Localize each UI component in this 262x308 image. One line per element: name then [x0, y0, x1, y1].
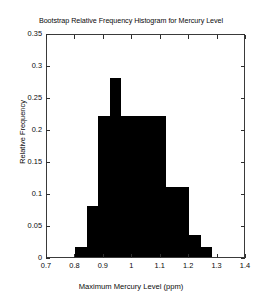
- x-axis-tick: [188, 254, 189, 258]
- histogram-bar: [189, 235, 200, 257]
- histogram-bar: [132, 116, 143, 257]
- plot-area: [46, 34, 245, 258]
- y-axis-tick: [46, 194, 50, 195]
- y-axis-tick: [46, 130, 50, 131]
- histogram-bar: [178, 187, 189, 257]
- x-axis-tick: [245, 35, 246, 39]
- histogram-bar: [98, 116, 109, 257]
- y-axis-tick: [241, 130, 245, 131]
- y-axis-tick: [46, 162, 50, 163]
- x-axis-tick-label: 0.9: [88, 262, 118, 270]
- x-axis-tick: [103, 254, 104, 258]
- x-axis-tick: [74, 35, 75, 39]
- y-axis-tick: [241, 162, 245, 163]
- x-axis-tick: [217, 254, 218, 258]
- y-axis-tick: [241, 66, 245, 67]
- histogram-figure: Bootstrap Relative Frequency Histogram f…: [0, 0, 262, 308]
- histogram-bar: [144, 116, 155, 257]
- x-axis-tick-label: 1.1: [145, 262, 175, 270]
- x-axis-tick: [74, 254, 75, 258]
- histogram-bar: [110, 78, 121, 257]
- x-axis-tick-label: 0.8: [59, 262, 89, 270]
- x-axis-tick: [160, 254, 161, 258]
- x-axis-tick-label: 1: [116, 262, 146, 270]
- histogram-bar: [201, 247, 212, 257]
- x-axis-tick-label: 1.4: [230, 262, 260, 270]
- x-axis-tick: [217, 35, 218, 39]
- x-axis-tick: [46, 35, 47, 39]
- y-axis-tick: [241, 194, 245, 195]
- x-axis-title: Maximum Mercury Level (ppm): [0, 282, 262, 291]
- histogram-bar: [166, 187, 177, 257]
- x-axis-tick: [160, 35, 161, 39]
- y-axis-tick: [46, 66, 50, 67]
- histogram-bar: [155, 116, 166, 257]
- x-axis-tick: [188, 35, 189, 39]
- y-axis-tick: [46, 226, 50, 227]
- bars-layer: [47, 35, 244, 257]
- y-axis-tick: [241, 258, 245, 259]
- y-axis-title: Relative Frequency: [19, 57, 27, 207]
- x-axis-tick-label: 0.7: [31, 262, 61, 270]
- x-axis-tick-label: 1.3: [202, 262, 232, 270]
- chart-title: Bootstrap Relative Frequency Histogram f…: [0, 16, 262, 25]
- y-axis-tick-label: 0: [0, 254, 42, 262]
- histogram-bar: [87, 206, 98, 257]
- y-axis-tick: [241, 98, 245, 99]
- y-axis-tick: [241, 226, 245, 227]
- x-axis-tick-label: 1.2: [173, 262, 203, 270]
- y-axis-tick-label: 0.05: [0, 222, 42, 230]
- x-axis-tick: [46, 254, 47, 258]
- x-axis-tick: [131, 254, 132, 258]
- x-axis-tick: [245, 254, 246, 258]
- y-axis-tick: [46, 258, 50, 259]
- histogram-bar: [75, 247, 86, 257]
- x-axis-tick: [103, 35, 104, 39]
- y-axis-tick-label: 0.35: [0, 30, 42, 38]
- x-axis-tick: [131, 35, 132, 39]
- y-axis-tick: [46, 98, 50, 99]
- histogram-bar: [121, 116, 132, 257]
